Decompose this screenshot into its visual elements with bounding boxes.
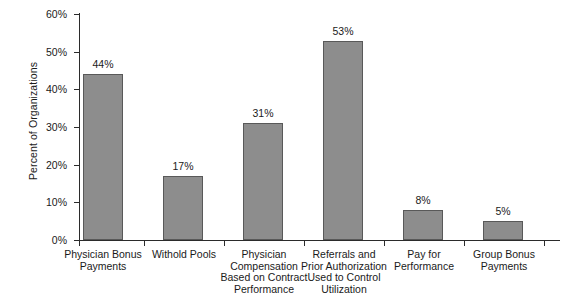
bar-pay-for-performance [403, 210, 443, 240]
x-category-label: Physician Bonus Payments [59, 249, 147, 272]
x-axis-line [79, 240, 560, 241]
y-tick-mark [74, 202, 79, 203]
bar-physician-bonus-payments [83, 74, 123, 240]
bar-group-bonus-payments [483, 221, 523, 240]
bar-withold-pools [163, 176, 203, 240]
bar-value-label: 5% [473, 206, 533, 217]
y-tick-mark [74, 14, 79, 15]
y-tick-mark [74, 127, 79, 128]
x-category-label: Group Bonus Payments [460, 249, 548, 272]
x-tick-mark [464, 241, 465, 246]
x-tick-mark [544, 241, 545, 246]
y-tick-label: 0% [0, 235, 67, 246]
x-category-label: Withold Pools [141, 249, 227, 261]
bar-value-label: 53% [313, 26, 373, 37]
y-tick-mark [74, 52, 79, 53]
bar-value-label: 31% [233, 108, 293, 119]
y-tick-mark [74, 89, 79, 90]
bar-chart: Percent of Organizations 0% 10% 20% 30% … [0, 0, 580, 304]
bar-referrals-prior-authorization [323, 41, 363, 240]
x-tick-mark [79, 241, 80, 246]
x-tick-mark [144, 241, 145, 246]
bar-value-label: 44% [73, 59, 133, 70]
y-tick-label: 10% [0, 197, 67, 208]
bar-physician-compensation [243, 123, 283, 240]
bar-value-label: 17% [153, 161, 213, 172]
y-tick-label: 40% [0, 84, 67, 95]
bar-value-label: 8% [393, 195, 453, 206]
x-tick-mark [224, 241, 225, 246]
y-tick-label: 30% [0, 122, 67, 133]
y-tick-label: 20% [0, 160, 67, 171]
y-tick-mark [74, 165, 79, 166]
x-category-label: Pay for Performance [381, 249, 467, 272]
x-category-label: Referrals and Prior Authorization Used t… [297, 249, 391, 295]
x-tick-mark [304, 241, 305, 246]
x-tick-mark [384, 241, 385, 246]
y-tick-label: 60% [0, 9, 67, 20]
y-tick-label: 50% [0, 47, 67, 58]
y-axis-line [79, 13, 80, 241]
